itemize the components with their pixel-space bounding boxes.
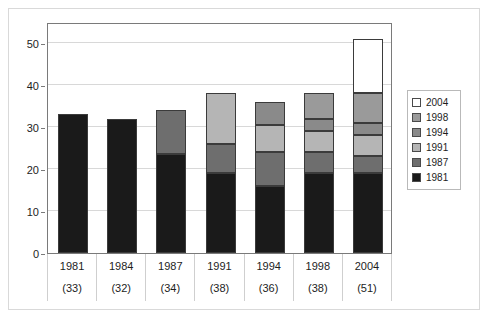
legend-swatch-icon bbox=[412, 128, 421, 137]
bar-segment[interactable] bbox=[353, 39, 383, 94]
legend-swatch-icon bbox=[412, 173, 421, 182]
y-tick-label: 0 bbox=[33, 249, 39, 260]
y-tick-mark bbox=[41, 170, 45, 171]
legend-swatch-icon bbox=[412, 113, 421, 122]
y-tick-label: 20 bbox=[27, 165, 39, 176]
legend-item[interactable]: 1981 bbox=[412, 170, 456, 185]
bar-segment[interactable] bbox=[156, 110, 186, 154]
legend-item[interactable]: 1998 bbox=[412, 110, 456, 125]
bar-segment[interactable] bbox=[156, 154, 186, 253]
x-axis-labels: 1981(33)1984(32)1987(34)1991(38)1994(36)… bbox=[47, 254, 392, 301]
bar-segment[interactable] bbox=[353, 173, 383, 253]
x-axis-year-label: 1981 bbox=[60, 261, 84, 272]
y-tick-mark bbox=[41, 254, 45, 255]
x-axis-cell: 1994(36) bbox=[245, 254, 294, 301]
y-tick-mark bbox=[41, 128, 45, 129]
bar-segment[interactable] bbox=[304, 131, 334, 152]
bar-group[interactable] bbox=[353, 22, 383, 253]
legend-label: 2004 bbox=[426, 98, 448, 108]
y-tick-label: 40 bbox=[27, 81, 39, 92]
x-axis-cell: 2004(51) bbox=[343, 254, 392, 301]
x-axis-year-label: 1987 bbox=[158, 261, 182, 272]
bar-segment[interactable] bbox=[255, 152, 285, 186]
x-axis-year-label: 1991 bbox=[207, 261, 231, 272]
x-axis-cell: 1998(38) bbox=[294, 254, 343, 301]
y-tick-label: 30 bbox=[27, 123, 39, 134]
y-tick-mark bbox=[41, 212, 45, 213]
legend: 200419981994199119871981 bbox=[407, 90, 461, 190]
bar-segment[interactable] bbox=[206, 173, 236, 253]
bar-group[interactable] bbox=[206, 22, 236, 253]
legend-item[interactable]: 2004 bbox=[412, 95, 456, 110]
y-tick-label: 50 bbox=[27, 39, 39, 50]
bar-group[interactable] bbox=[304, 22, 334, 253]
bar-segment[interactable] bbox=[255, 186, 285, 253]
legend-item[interactable]: 1991 bbox=[412, 140, 456, 155]
legend-swatch-icon bbox=[412, 158, 421, 167]
x-axis-total-label: (34) bbox=[161, 283, 181, 294]
legend-label: 1987 bbox=[426, 158, 448, 168]
bar-segment[interactable] bbox=[255, 102, 285, 125]
x-axis-year-label: 1998 bbox=[306, 261, 330, 272]
bar-segment[interactable] bbox=[304, 93, 334, 118]
bar-segment[interactable] bbox=[353, 123, 383, 136]
bar-segment[interactable] bbox=[206, 144, 236, 173]
legend-label: 1994 bbox=[426, 128, 448, 138]
bar-group[interactable] bbox=[58, 22, 88, 253]
legend-swatch-icon bbox=[412, 143, 421, 152]
x-axis-cell: 1981(33) bbox=[48, 254, 97, 301]
x-axis-total-label: (38) bbox=[210, 283, 230, 294]
legend-label: 1981 bbox=[426, 173, 448, 183]
bar-segment[interactable] bbox=[353, 135, 383, 156]
y-axis: 01020304050 bbox=[9, 9, 45, 269]
x-axis-cell: 1984(32) bbox=[97, 254, 146, 301]
bar-segment[interactable] bbox=[107, 119, 137, 253]
bar-segment[interactable] bbox=[304, 152, 334, 173]
bar-segment[interactable] bbox=[58, 114, 88, 253]
x-axis-total-label: (51) bbox=[357, 283, 377, 294]
bar-segment[interactable] bbox=[304, 173, 334, 253]
bar-group[interactable] bbox=[156, 22, 186, 253]
x-axis-total-label: (38) bbox=[308, 283, 328, 294]
x-axis-year-label: 1984 bbox=[109, 261, 133, 272]
y-tick-label: 10 bbox=[27, 207, 39, 218]
x-axis-cell: 1987(34) bbox=[146, 254, 195, 301]
bar-segment[interactable] bbox=[304, 119, 334, 132]
bar-segment[interactable] bbox=[206, 93, 236, 143]
legend-item[interactable]: 1987 bbox=[412, 155, 456, 170]
legend-item[interactable]: 1994 bbox=[412, 125, 456, 140]
legend-label: 1991 bbox=[426, 143, 448, 153]
y-tick-mark bbox=[41, 86, 45, 87]
bar-segment[interactable] bbox=[353, 93, 383, 122]
bar-group[interactable] bbox=[255, 22, 285, 253]
bar-segment[interactable] bbox=[255, 125, 285, 152]
x-axis-cell: 1991(38) bbox=[195, 254, 244, 301]
x-axis-year-label: 2004 bbox=[355, 261, 379, 272]
chart-frame: 01020304050 1981(33)1984(32)1987(34)1991… bbox=[8, 8, 480, 310]
x-axis-total-label: (32) bbox=[111, 283, 131, 294]
bars-layer bbox=[48, 24, 391, 253]
bar-segment[interactable] bbox=[353, 156, 383, 173]
legend-swatch-icon bbox=[412, 98, 421, 107]
legend-label: 1998 bbox=[426, 113, 448, 123]
y-tick-mark bbox=[41, 44, 45, 45]
x-axis-year-label: 1994 bbox=[256, 261, 280, 272]
x-axis-total-label: (33) bbox=[62, 283, 82, 294]
bar-group[interactable] bbox=[107, 22, 137, 253]
plot-area bbox=[47, 23, 392, 254]
x-axis-total-label: (36) bbox=[259, 283, 279, 294]
